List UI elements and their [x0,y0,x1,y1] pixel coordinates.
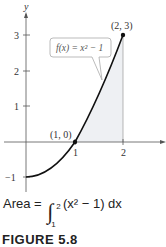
point-2-3 [121,33,125,37]
y-axis-arrow-icon [24,12,28,18]
y-tick-label-3: 3 [14,30,19,41]
point-1-0 [73,140,77,144]
integral-lower-limit: 1 [51,220,55,229]
function-label: f(x) = x² − 1 [56,43,103,54]
y-axis-label: y [23,1,29,12]
figure-caption: FIGURE 5.8 [2,232,78,247]
y-tick-label-neg1: −1 [5,172,16,183]
point-label-1-0: (1, 0) [50,129,72,141]
point-label-2-3: (2, 3) [111,20,133,32]
integrand: (x² − 1) dx [63,196,122,211]
y-tick-label-1: 1 [14,101,19,112]
integral-upper-limit: 2 [56,202,60,211]
x-tick-label-2: 2 [121,147,126,158]
y-tick-label-2: 2 [14,66,19,77]
area-formula: Area = ∫ 2 1 (x² − 1) dx [3,196,122,211]
x-axis-arrow-icon [160,140,166,144]
x-tick-label-1: 1 [73,147,78,158]
area-label: Area = [3,196,42,211]
